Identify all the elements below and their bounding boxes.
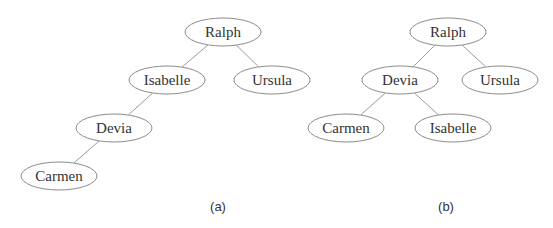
node-devia: Devia	[76, 114, 152, 142]
node-ralph: Ralph	[185, 18, 261, 46]
node-label: Carmen	[322, 120, 370, 136]
tree-b-nodes: RalphDeviaUrsulaCarmenIsabelle	[308, 18, 538, 142]
edge-ralph-devia	[413, 45, 435, 67]
edge-devia-carmen	[74, 141, 99, 163]
edge-ralph-isabelle	[182, 45, 208, 67]
tree-a-edges	[74, 45, 259, 163]
tree-a-nodes: RalphIsabelleUrsulaDeviaCarmen	[21, 18, 310, 190]
edge-devia-carmen	[361, 93, 386, 115]
node-label: Devia	[382, 72, 418, 88]
node-ursula: Ursula	[234, 66, 310, 94]
node-label: Ursula	[252, 72, 292, 88]
node-isabelle: Isabelle	[129, 66, 205, 94]
node-label: Isabelle	[144, 72, 191, 88]
edge-ralph-ursula	[462, 45, 486, 67]
node-ursula: Ursula	[462, 66, 538, 94]
tree-diagram: RalphIsabelleUrsulaDeviaCarmen (a) Ralph…	[0, 0, 553, 228]
tree-b-caption: (b)	[438, 199, 454, 214]
node-ralph: Ralph	[410, 18, 486, 46]
edge-isabelle-devia	[128, 93, 152, 115]
node-isabelle: Isabelle	[415, 114, 491, 142]
node-label: Ursula	[480, 72, 520, 88]
tree-b: RalphDeviaUrsulaCarmenIsabelle (b)	[308, 18, 538, 214]
node-label: Ralph	[430, 24, 466, 40]
edge-ralph-ursula	[236, 45, 258, 67]
node-label: Ralph	[205, 24, 241, 40]
node-carmen: Carmen	[308, 114, 384, 142]
edge-devia-isabelle	[414, 93, 438, 115]
tree-a-caption: (a)	[210, 199, 226, 214]
node-carmen: Carmen	[21, 162, 97, 190]
node-label: Isabelle	[430, 120, 477, 136]
node-label: Devia	[96, 120, 132, 136]
tree-a: RalphIsabelleUrsulaDeviaCarmen (a)	[21, 18, 310, 214]
node-label: Carmen	[35, 168, 83, 184]
node-devia: Devia	[362, 66, 438, 94]
